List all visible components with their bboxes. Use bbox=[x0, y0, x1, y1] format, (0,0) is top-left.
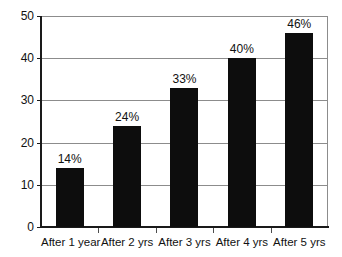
x-axis-labels: After 1 yearAfter 2 yrsAfter 3 yrsAfter … bbox=[41, 235, 328, 251]
bar-group-3: 33% bbox=[156, 16, 213, 227]
y-axis-label-20: 20 bbox=[4, 137, 34, 149]
y-axis-label-0: 0 bbox=[4, 221, 34, 233]
x-axis-label-2: After 2 yrs bbox=[98, 235, 155, 249]
bars-layer: 14%24%33%40%46% bbox=[41, 16, 328, 227]
x-tick-1 bbox=[98, 228, 99, 233]
x-axis-label-5: After 5 yrs bbox=[271, 235, 328, 249]
bar-group-2: 24% bbox=[98, 16, 155, 227]
bar-5[interactable] bbox=[285, 33, 313, 227]
bar-1[interactable] bbox=[56, 168, 84, 227]
bar-chart: 01020304050 14%24%33%40%46% After 1 year… bbox=[0, 0, 342, 257]
x-axis-label-3: After 3 yrs bbox=[156, 235, 213, 249]
bar-3[interactable] bbox=[170, 88, 198, 227]
y-axis-label-50: 50 bbox=[4, 10, 34, 22]
bar-group-4: 40% bbox=[213, 16, 270, 227]
x-tick-4 bbox=[271, 228, 272, 233]
y-axis-label-30: 30 bbox=[4, 94, 34, 106]
bar-value-label-5: 46% bbox=[287, 18, 311, 30]
x-axis-label-1: After 1 year bbox=[41, 235, 98, 249]
x-tick-3 bbox=[213, 228, 214, 233]
bar-group-1: 14% bbox=[41, 16, 98, 227]
y-axis-label-10: 10 bbox=[4, 179, 34, 191]
bar-value-label-1: 14% bbox=[58, 153, 82, 165]
bar-group-5: 46% bbox=[271, 16, 328, 227]
bar-value-label-2: 24% bbox=[115, 111, 139, 123]
bar-2[interactable] bbox=[113, 126, 141, 227]
x-tick-2 bbox=[156, 228, 157, 233]
bar-value-label-3: 33% bbox=[172, 73, 196, 85]
y-axis-label-40: 40 bbox=[4, 52, 34, 64]
bar-4[interactable] bbox=[228, 58, 256, 227]
bar-value-label-4: 40% bbox=[230, 43, 254, 55]
x-axis-label-4: After 4 yrs bbox=[213, 235, 270, 249]
